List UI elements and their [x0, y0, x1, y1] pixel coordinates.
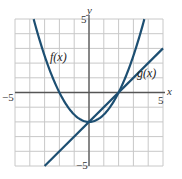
y-axis-label: y: [86, 4, 92, 16]
f-curve-label: f(x): [50, 50, 67, 64]
axes: [15, 15, 165, 166]
x-max-tick-label: 5: [158, 94, 164, 106]
graph: −5 5 5 −5 x y f(x) g(x): [0, 0, 182, 179]
x-min-tick-label: −5: [2, 91, 14, 103]
x-axis-label: x: [166, 85, 172, 97]
g-curve-label: g(x): [137, 66, 156, 80]
y-min-tick-label: −5: [76, 159, 88, 171]
